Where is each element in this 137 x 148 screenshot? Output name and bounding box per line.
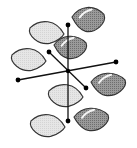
- node-lower-right: [84, 86, 89, 91]
- node-center: [66, 69, 70, 73]
- lobe-3-light-icon: [49, 85, 83, 107]
- lobe-shape: [12, 49, 46, 71]
- lobe-1-dark-icon: [72, 7, 104, 31]
- node-upper-left: [47, 50, 52, 55]
- node-top: [66, 23, 71, 28]
- lobe-2-light-icon: [12, 49, 46, 71]
- lobe-4-dark-icon: [74, 108, 108, 130]
- lobe-2-dark-icon: [54, 36, 86, 58]
- orbital-diagram: [0, 0, 137, 148]
- lobe-4-light-icon: [31, 115, 65, 137]
- node-right: [114, 60, 119, 65]
- lobe-shape: [49, 85, 83, 107]
- lobe-shape: [31, 115, 65, 137]
- node-bottom: [66, 119, 71, 124]
- lobe-3-dark-icon: [91, 73, 125, 95]
- node-left: [16, 78, 21, 83]
